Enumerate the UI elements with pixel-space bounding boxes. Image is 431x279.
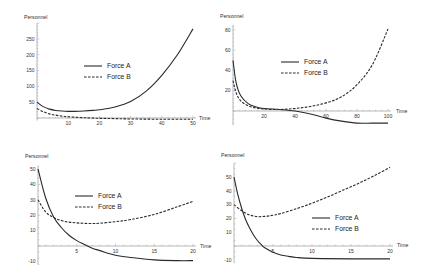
legend-label-force-b: Force B (335, 225, 359, 232)
y-axis-label: Personnel (221, 152, 244, 158)
legend-label-force-b: Force B (98, 203, 122, 210)
series-force-b (234, 167, 390, 216)
y-tick-label: 250 (26, 36, 35, 42)
y-tick-label: 100 (26, 83, 35, 89)
x-tick-label: 15 (151, 248, 157, 254)
x-axis-label: Time (199, 115, 210, 121)
x-tick-label: 5 (75, 248, 78, 254)
y-tick-label: 30 (226, 201, 232, 207)
y-tick-label: 40 (225, 67, 231, 73)
y-tick-label: 50 (226, 174, 232, 180)
legend-label-force-a: Force A (98, 192, 122, 199)
y-tick-label: 50 (30, 166, 36, 172)
legend-label-force-b: Force B (304, 69, 328, 76)
legend: Force AForce B (84, 62, 131, 80)
x-tick-label: 40 (159, 120, 165, 126)
legend-label-force-a: Force A (335, 214, 359, 221)
x-tick-label: 40 (292, 113, 298, 119)
x-tick-label: 100 (384, 113, 393, 119)
y-tick-label: 20 (225, 87, 231, 93)
y-axis-label: Personnel (220, 13, 243, 19)
legend: Force AForce B (312, 214, 359, 232)
y-tick-label: -10 (28, 258, 35, 264)
x-axis-label: Time (200, 243, 211, 249)
x-tick-label: 15 (348, 248, 354, 254)
y-axis-label: Personnel (24, 14, 47, 20)
x-tick-label: 10 (65, 120, 71, 126)
y-tick-label: 40 (226, 188, 232, 194)
panel-top-right: 2040608020406080100PersonnelTimeForce AF… (220, 13, 407, 125)
y-tick-label: 200 (26, 52, 35, 58)
x-tick-label: 50 (190, 120, 196, 126)
y-tick-label: 150 (26, 67, 35, 73)
x-tick-label: 10 (309, 248, 315, 254)
x-tick-label: 80 (354, 113, 360, 119)
x-tick-label: 20 (261, 113, 267, 119)
y-tick-label: -10 (224, 257, 231, 263)
panel-bottom-left: -1010203040505101520PersonnelTimeForce A… (25, 153, 211, 264)
panel-bottom-right: -1010203040505101520PersonnelTimeForce A… (221, 152, 408, 263)
x-tick-label: 20 (387, 248, 393, 254)
panel-top-left: 501001502002501020304050PersonnelTimeFor… (24, 14, 210, 126)
y-tick-label: 30 (30, 197, 36, 203)
y-tick-label: 80 (225, 27, 231, 33)
x-tick-label: 10 (113, 248, 119, 254)
legend: Force AForce B (75, 192, 122, 210)
y-tick-label: 60 (225, 47, 231, 53)
series-force-a (37, 29, 193, 112)
x-axis-label: Time (396, 108, 407, 114)
y-tick-label: 10 (226, 229, 232, 235)
legend-label-force-a: Force A (304, 58, 328, 65)
x-axis-label: Time (397, 242, 408, 248)
y-tick-label: 40 (30, 181, 36, 187)
y-tick-label: 20 (226, 215, 232, 221)
y-tick-label: 20 (30, 212, 36, 218)
legend-label-force-a: Force A (107, 62, 131, 69)
x-tick-label: 20 (190, 248, 196, 254)
x-tick-label: 20 (97, 120, 103, 126)
chart-figure: 501001502002501020304050PersonnelTimeFor… (0, 0, 431, 279)
legend: Force AForce B (281, 58, 328, 76)
y-tick-label: 10 (30, 227, 36, 233)
y-tick-label: 50 (29, 99, 35, 105)
x-tick-label: 30 (128, 120, 134, 126)
legend-label-force-b: Force B (107, 73, 131, 80)
y-axis-label: Personnel (25, 153, 48, 159)
